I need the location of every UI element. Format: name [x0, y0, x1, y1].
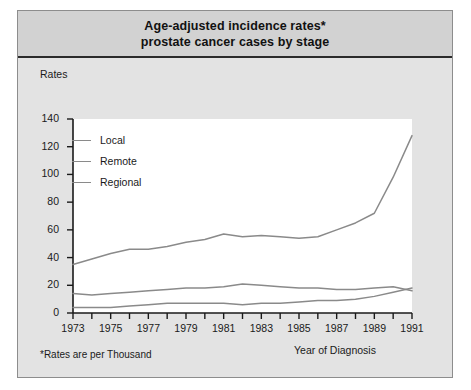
y-tick-label: 60 — [25, 223, 59, 235]
legend-swatch-local — [72, 140, 91, 141]
x-tick-label: 1987 — [319, 322, 355, 334]
series-line-regional — [73, 288, 412, 307]
legend-swatch-remote — [72, 161, 91, 162]
chart-title-line-1: Age-adjusted incidence rates* — [144, 18, 325, 34]
chart-title-banner: Age-adjusted incidence rates* prostate c… — [18, 11, 452, 58]
chart-footnote: *Rates are per Thousand — [40, 349, 152, 360]
legend-label: Local — [100, 134, 125, 146]
legend-label: Regional — [100, 176, 141, 188]
x-tick-label: 1983 — [243, 322, 279, 334]
x-tick-label: 1973 — [55, 322, 91, 334]
chart-plot-area: Rates 020406080100120140 197319751977197… — [18, 58, 454, 379]
x-tick-label: 1989 — [356, 322, 392, 334]
y-tick-label: 80 — [25, 195, 59, 207]
x-tick-label: 1991 — [394, 322, 430, 334]
y-tick-label: 0 — [25, 306, 59, 318]
legend-item-local: Local — [72, 133, 125, 147]
x-tick-label: 1977 — [130, 322, 166, 334]
chart-title-line-2: prostate cancer cases by stage — [141, 34, 330, 50]
series-line-remote — [73, 284, 412, 295]
y-tick-label: 140 — [25, 112, 59, 124]
legend-item-regional: Regional — [72, 175, 141, 189]
x-tick-label: 1979 — [168, 322, 204, 334]
x-axis-title: Year of Diagnosis — [294, 344, 376, 356]
chart-figure: Age-adjusted incidence rates* prostate c… — [17, 10, 453, 378]
y-tick-label: 20 — [25, 278, 59, 290]
x-tick-label: 1985 — [281, 322, 317, 334]
y-tick-label: 120 — [25, 140, 59, 152]
legend-item-remote: Remote — [72, 154, 137, 168]
y-tick-label: 100 — [25, 167, 59, 179]
x-tick-label: 1981 — [206, 322, 242, 334]
legend-swatch-regional — [72, 182, 91, 183]
legend-label: Remote — [100, 155, 137, 167]
x-tick-label: 1975 — [93, 322, 129, 334]
y-tick-label: 40 — [25, 251, 59, 263]
